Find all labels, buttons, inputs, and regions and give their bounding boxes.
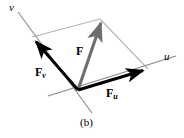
vector-label-Fu-subscript: u	[113, 92, 117, 101]
vector-label-Fv: Fv	[35, 66, 46, 78]
vector-label-Fv-subscript: v	[42, 71, 46, 80]
construction-line-parallel-to-v	[100, 19, 148, 69]
vector-label-F: F	[76, 45, 83, 57]
axis-label-v: v	[9, 2, 14, 13]
axis-label-u: u	[164, 51, 170, 62]
construction-line-parallel-to-u	[32, 19, 100, 37]
construction-lines-group	[32, 19, 148, 69]
vector-label-F-base: F	[76, 44, 83, 58]
vector-label-Fu: Fu	[106, 87, 118, 99]
axes-group	[18, 12, 176, 113]
figure-caption: (b)	[80, 117, 93, 128]
vector-diagram-figure: v u F Fv Fu (b)	[0, 0, 184, 138]
